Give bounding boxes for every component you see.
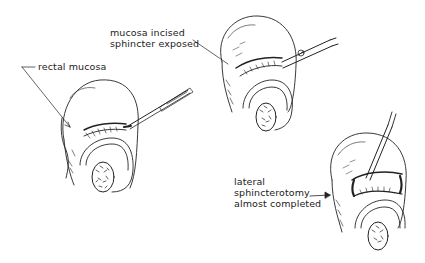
label-line: almost completed: [234, 198, 321, 209]
label-line: sphincter exposed: [110, 38, 199, 49]
label-line: lateral: [234, 176, 321, 187]
panel-1-anatomy: [61, 80, 193, 192]
illustration-canvas: [0, 0, 425, 263]
label-lateral-sphincterotomy: lateral sphincterotomy almost completed: [234, 176, 321, 209]
label-line: rectal mucosa: [38, 61, 106, 72]
panel-2-anatomy: [221, 16, 338, 131]
rectal-mucosa-leader: [22, 67, 70, 127]
panel-3-anatomy: [331, 112, 407, 250]
label-line: mucosa incised: [110, 27, 199, 38]
label-mucosa-incised: mucosa incised sphincter exposed: [110, 27, 199, 49]
label-rectal-mucosa: rectal mucosa: [38, 61, 106, 72]
label-line: sphincterotomy: [234, 187, 321, 198]
